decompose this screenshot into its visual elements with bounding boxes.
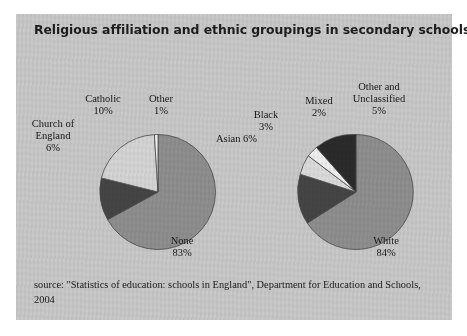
pie-label-other-and-unclassified: Other and Unclassified 5% — [334, 81, 424, 118]
pie-chart-ethnic-groupings: Asian 6% Black 3% Mixed 2% Other and Unc… — [16, 14, 452, 276]
figure-panel: Religious affiliation and ethnic groupin… — [16, 14, 452, 320]
pie-label-other-and-unclassified-name-1: Other and — [334, 81, 424, 93]
pie-label-other-and-unclassified-name-2: Unclassified — [334, 93, 424, 105]
pie-label-asian: Asian 6% — [216, 133, 302, 145]
pie-label-other-and-unclassified-value: 5% — [334, 105, 424, 117]
pie-label-black: Black 3% — [238, 109, 294, 133]
pie-label-white: White 84% — [356, 235, 416, 259]
pie-label-white-value: 84% — [356, 247, 416, 259]
plot-area: Catholic 10% Other 1% Church of England … — [16, 14, 452, 276]
pie-label-black-value: 3% — [238, 121, 294, 133]
source-note: source: "Statistics of education: school… — [34, 278, 444, 307]
pie-label-black-name: Black — [238, 109, 294, 121]
pie-label-white-name: White — [356, 235, 416, 247]
pie-label-asian-text: Asian 6% — [216, 133, 302, 145]
